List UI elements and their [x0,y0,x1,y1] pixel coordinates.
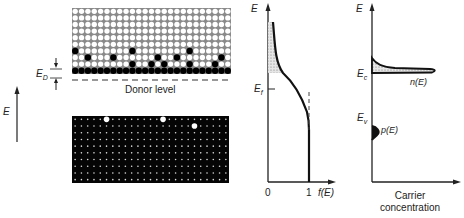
valence-band-grid [72,116,229,183]
energy-axis-arrow [15,86,20,142]
band-diagram: E ED Donor level E Ef 0 1 f(E) E [0,0,464,218]
carrier-y-label: E [356,3,363,14]
valence-edge-label: Ev [357,112,368,125]
fermi-y-label: E [251,3,258,14]
tick-1: 1 [306,187,312,198]
p-e-label: p(E) [380,125,398,135]
donor-level-label: Donor level [125,84,176,95]
donor-gap-label: ED [36,68,48,81]
carrier-concentration-plot [370,3,462,185]
carrier-x-label-line2: concentration [380,202,440,213]
conduction-band-grid [72,8,231,74]
n-e-label: n(E) [410,77,427,87]
fermi-level-label: Ef [254,83,264,96]
fermi-x-label: f(E) [318,187,334,198]
hole-distribution-p [372,126,379,140]
tick-0: 0 [265,187,271,198]
conduction-edge-label: Ec [357,68,368,81]
electron-distribution-n [372,58,435,73]
energy-axis-label: E [3,106,10,117]
fermi-curve [273,22,309,182]
carrier-x-label-line1: Carrier [395,190,426,201]
donor-gap-marker [50,58,62,90]
fermi-distribution-plot [266,3,337,185]
